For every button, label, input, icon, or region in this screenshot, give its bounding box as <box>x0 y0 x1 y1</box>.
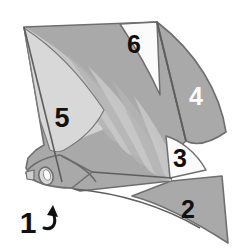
region-label-6: 6 <box>127 30 141 58</box>
head-tip-notch <box>26 170 34 180</box>
anatomical-diagram: 1 2 3 4 5 6 <box>0 0 243 249</box>
region-label-4: 4 <box>189 82 203 110</box>
region-label-3: 3 <box>173 144 187 172</box>
region-label-5: 5 <box>54 103 69 133</box>
region-label-2: 2 <box>181 195 195 223</box>
region-label-1: 1 <box>20 206 37 239</box>
figure-root: 1 2 3 4 5 6 <box>0 0 243 249</box>
